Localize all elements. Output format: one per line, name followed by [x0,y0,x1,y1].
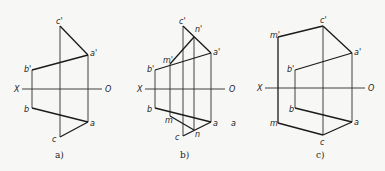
label-x: X [13,85,20,94]
caption-c: c) [316,150,325,160]
label-m: m [165,116,173,125]
label-a-prime: a' [90,49,97,58]
label-m-prime: m' [163,56,173,65]
label-stray-a: a [231,119,236,128]
edge-ba [295,108,352,122]
label-b: b [289,105,294,114]
label-c: c [320,138,325,147]
label-o: O [368,84,374,93]
panel-a: c' a' b' X O b a c a) [13,17,111,160]
label-b-prime: b' [287,65,294,74]
label-x: X [136,85,143,94]
label-b: b [24,105,29,114]
label-b: b [147,105,152,114]
edge-ca [60,122,88,137]
edge-m'c' [278,26,323,37]
edge-mc [278,123,323,135]
panel-c: c' m' a' b' X O b m a c c) [256,16,374,160]
label-c: c [52,135,57,144]
edge-mn [170,116,194,130]
label-a-prime: a' [354,48,361,57]
label-b-prime: b' [24,65,31,74]
label-n: n [195,130,200,139]
caption-a: a) [55,150,64,160]
orthographic-projection-figure: c' a' b' X O b a c a) c' n' a' m' b' X O… [0,0,385,171]
label-o: O [229,85,235,94]
label-a: a [354,118,359,127]
caption-b: b) [180,150,189,160]
label-b-prime: b' [147,65,154,74]
edge-ca [323,122,352,135]
label-c-prime: c' [320,16,327,25]
panel-b: c' n' a' m' b' X O b m a a n c b) [136,17,236,160]
label-n-prime: n' [195,25,202,34]
edge-b'a' [295,53,352,70]
label-a-prime: a' [213,48,220,57]
label-m-prime: m' [270,31,280,40]
label-m: m [270,119,278,128]
label-x: X [256,84,263,93]
edge-m'n' [170,37,194,64]
label-c-prime: c' [56,17,63,26]
label-c: c [175,133,180,142]
label-c-prime: c' [179,17,186,26]
label-o: O [105,85,111,94]
edge-c'a' [323,26,352,53]
label-a: a [213,119,218,128]
edge-c'a' [60,26,88,55]
label-a: a [90,119,95,128]
